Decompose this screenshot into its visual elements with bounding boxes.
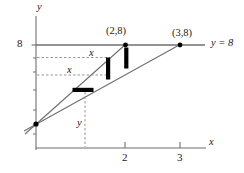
x-tick-label-3: 3 <box>177 152 183 163</box>
x-tick-label-2: 2 <box>122 152 128 163</box>
point-marker-2-8 <box>123 43 128 48</box>
x-axis-label: x <box>209 137 214 148</box>
annotation-label-y: y <box>77 118 82 129</box>
y-tick-label-8: 8 <box>17 38 23 49</box>
bar-horizontal-strip <box>73 88 94 92</box>
bar-right-vertical-strip <box>124 48 128 69</box>
bar-left-vertical-strip <box>106 58 110 80</box>
annotation-label-x-upper: x <box>89 48 94 59</box>
origin-point-marker <box>33 121 38 126</box>
annotation-label-x-lower: x <box>67 65 72 76</box>
y-axis-label: y <box>37 2 42 13</box>
point-label-2-8: (2,8) <box>106 26 126 37</box>
point-marker-3-8 <box>178 43 183 48</box>
math-diagram-figure: y x 8 2 3 (2,8) (3,8) y = 8 x x y <box>0 0 244 173</box>
line-equation-label: y = 8 <box>211 38 233 49</box>
point-label-3-8: (3,8) <box>172 28 192 39</box>
